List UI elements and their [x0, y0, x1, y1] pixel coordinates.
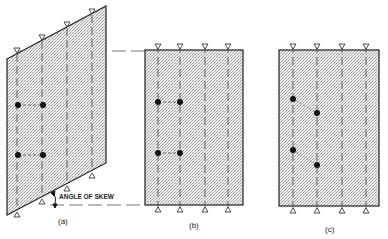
straight-deck	[279, 50, 379, 206]
panel-c: (c)	[279, 44, 379, 234]
caption-c: (c)	[325, 225, 335, 234]
skew-angle-arrow-icon	[51, 191, 57, 208]
support-triangles-top	[155, 44, 231, 49]
support-triangles-top	[290, 44, 369, 49]
skewed-deck	[7, 6, 106, 215]
skew-bridge-diagram: ANGLE OF SKEW (a)	[0, 0, 388, 239]
caption-a: (a)	[58, 217, 68, 226]
panel-b: (b)	[145, 44, 243, 230]
angle-of-skew-label: ANGLE OF SKEW	[59, 193, 115, 200]
caption-b: (b)	[189, 221, 199, 230]
support-triangles-bottom	[290, 208, 369, 213]
support-triangles-bottom	[155, 207, 231, 212]
panel-a: ANGLE OF SKEW (a)	[7, 6, 115, 226]
